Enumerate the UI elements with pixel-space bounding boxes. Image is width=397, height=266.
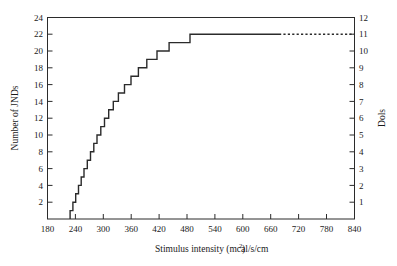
right-tick-label-12: 12 (359, 13, 368, 23)
chart-canvas: 2 4 6 8 10 12 14 16 18 20 22 24 (0, 0, 397, 266)
left-tick-label-24: 24 (34, 13, 44, 23)
left-axis-tick-labels: 2 4 6 8 10 12 14 16 18 20 22 24 (34, 13, 44, 208)
left-axis-ticks (48, 18, 53, 203)
right-tick-label-6: 6 (359, 113, 364, 123)
left-tick-label-6: 6 (39, 164, 44, 174)
left-tick-label-14: 14 (34, 97, 44, 107)
right-tick-label-9: 9 (359, 63, 364, 73)
right-tick-label-7: 7 (359, 97, 364, 107)
left-tick-label-16: 16 (34, 80, 44, 90)
bottom-tick-label-660: 660 (264, 224, 278, 234)
bottom-tick-label-420: 420 (152, 224, 166, 234)
bottom-tick-label-300: 300 (97, 224, 111, 234)
bottom-tick-label-180: 180 (41, 224, 55, 234)
right-axis-tick-labels: 1 2 3 4 5 6 7 8 9 10 11 12 (359, 13, 369, 208)
bottom-tick-label-480: 480 (180, 224, 194, 234)
y-axis-title-left: Number of JNDs (10, 85, 20, 150)
bottom-tick-label-540: 540 (208, 224, 222, 234)
bottom-tick-label-780: 780 (320, 224, 334, 234)
plot-frame (48, 18, 355, 220)
bottom-tick-label-840: 840 (348, 224, 362, 234)
x-axis-title-main: Stimulus intensity (mcal/s/cm (155, 244, 269, 255)
bottom-axis-tick-labels: 180 240 300 360 420 480 540 600 660 720 … (41, 224, 362, 234)
right-tick-label-3: 3 (359, 164, 364, 174)
bottom-tick-label-240: 240 (69, 224, 83, 234)
left-tick-label-2: 2 (39, 197, 44, 207)
right-tick-label-10: 10 (359, 46, 369, 56)
right-tick-label-4: 4 (359, 147, 364, 157)
right-tick-label-5: 5 (359, 130, 364, 140)
right-tick-label-1: 1 (359, 197, 364, 207)
bottom-tick-label-360: 360 (124, 224, 138, 234)
y-axis-title-right: Dols (377, 109, 387, 127)
left-tick-label-18: 18 (34, 63, 44, 73)
right-tick-label-11: 11 (359, 29, 368, 39)
left-tick-label-20: 20 (34, 46, 44, 56)
left-tick-label-10: 10 (34, 130, 44, 140)
right-tick-label-2: 2 (359, 181, 364, 191)
bottom-tick-label-600: 600 (236, 224, 250, 234)
left-tick-label-22: 22 (34, 29, 43, 39)
chart-figure: 2 4 6 8 10 12 14 16 18 20 22 24 (0, 0, 397, 266)
right-tick-label-8: 8 (359, 80, 364, 90)
data-series-measured (70, 34, 279, 219)
x-axis-title-end: ) (242, 244, 245, 255)
left-tick-label-12: 12 (34, 113, 43, 123)
bottom-tick-label-720: 720 (292, 224, 306, 234)
left-tick-label-8: 8 (39, 147, 44, 157)
x-axis-title-group: Stimulus intensity (mcal/s/cm 2 ) (155, 242, 269, 255)
right-axis-ticks (350, 18, 355, 203)
bottom-axis-ticks (48, 214, 355, 219)
left-tick-label-4: 4 (39, 181, 44, 191)
